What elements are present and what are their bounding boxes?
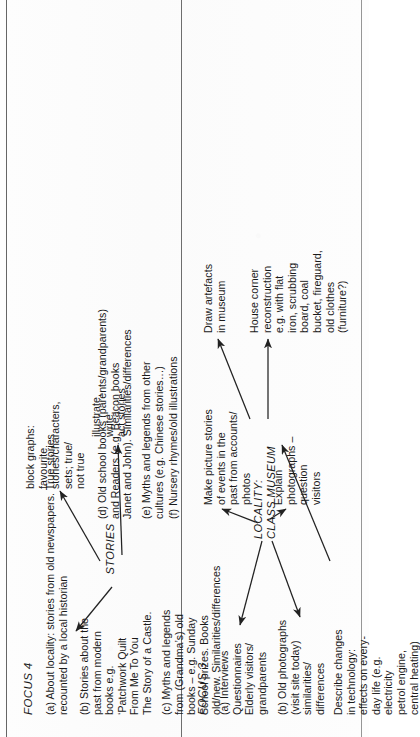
focus4-item-e: (e) Myths and legends from other culture… [140, 274, 165, 519]
focus4-outcome-block-graphs: block graphs: favourite stories/characte… [24, 339, 87, 489]
focus4-item-c: (c) Myths and legends from (Grandma’s) o… [160, 530, 223, 715]
focus3-outcome-explain-photographs: Explain photographs – question visitors [272, 385, 322, 505]
divider-top [6, 0, 7, 737]
focus3-item-b: (b) Old photographs (visit site today) s… [276, 585, 326, 715]
focus3-outcome-house-corner: House corner reconstruction e.g. with fl… [248, 203, 349, 333]
focus3-outcome-make-picture-stories: Make picture stories of events in the pa… [202, 345, 252, 505]
focus4-heading: FOCUS 4 [22, 662, 34, 715]
focus4-center-stories: STORIES [104, 509, 117, 589]
focus3-heading: FOCUS 3 [196, 662, 208, 715]
focus3-outcome-draw-artefacts: Draw artefacts in museum [202, 203, 227, 333]
focus4-outcome-illustrate-write-act: illustrate, write, act stories [90, 317, 128, 437]
focus3-item-a: (a) Interviews Questionnaires Elderly vi… [218, 585, 268, 715]
focus3-item-c: Describe changes in technology: effects … [332, 575, 420, 715]
focus4-item-f: (f) Nursery rhymes/old illustrations [167, 274, 180, 519]
